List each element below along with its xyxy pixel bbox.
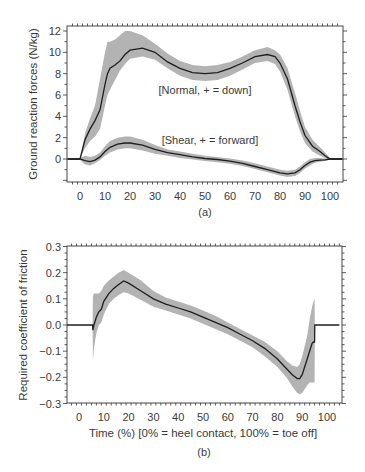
x-tick-label: 0 <box>77 190 83 202</box>
x-tick-label: 100 <box>318 411 336 423</box>
figure: 024681012 0102030405060708090100 Ground … <box>0 0 365 472</box>
y-tick-label: 2 <box>55 132 61 144</box>
panel-b-bands <box>67 270 339 394</box>
y-tick-label: 0.0 <box>46 319 61 331</box>
x-tick-label: 60 <box>224 190 236 202</box>
panel-a-bands <box>68 31 343 177</box>
panel-a-ylabel: Ground reaction forces (N/kg) <box>27 28 39 180</box>
x-tick-label: 80 <box>274 190 286 202</box>
x-tick-label: 40 <box>174 190 186 202</box>
x-tick-label: 30 <box>147 411 159 423</box>
x-tick-label: 20 <box>122 411 134 423</box>
x-tick-label: 50 <box>197 411 209 423</box>
mean-line <box>68 143 343 174</box>
x-tick-label: 90 <box>296 411 308 423</box>
x-tick-label: 70 <box>246 411 258 423</box>
y-tick-label: 0.1 <box>46 293 61 305</box>
panel-b-xticklabels: 0102030405060708090100 <box>76 411 336 423</box>
mean-line <box>67 281 339 379</box>
y-tick-label: −0.2 <box>39 371 61 383</box>
y-tick-label: 12 <box>49 25 61 37</box>
y-tick-label: −0.3 <box>39 398 61 410</box>
panel-b: −0.3−0.2−0.10.00.10.20.3 010203040506070… <box>17 241 346 459</box>
panel-b-xlabel: Time (%) [0% = heel contact, 100% = toe … <box>89 427 317 439</box>
y-tick-label: 0.2 <box>46 267 61 279</box>
x-tick-label: 40 <box>172 411 184 423</box>
panel-b-lines <box>67 281 339 379</box>
panel-b-ylabel: Required coefficient of friction <box>17 249 29 400</box>
x-tick-label: 100 <box>321 190 339 202</box>
x-tick-label: 10 <box>98 411 110 423</box>
x-tick-label: 90 <box>299 190 311 202</box>
x-tick-label: 0 <box>76 411 82 423</box>
panel-a-xticklabels: 0102030405060708090100 <box>77 190 339 202</box>
y-tick-label: 0 <box>55 153 61 165</box>
x-tick-label: 60 <box>222 411 234 423</box>
confidence-band <box>67 270 339 394</box>
x-tick-label: 10 <box>99 190 111 202</box>
x-tick-label: 80 <box>271 411 283 423</box>
annotation-shear: [Shear, + = forward] <box>162 134 259 146</box>
panel-b-label: (b) <box>197 446 210 458</box>
x-tick-label: 20 <box>124 190 136 202</box>
panel-a-yticklabels: 024681012 <box>49 25 61 165</box>
x-tick-label: 30 <box>149 190 161 202</box>
panel-a: 024681012 0102030405060708090100 Ground … <box>27 24 347 219</box>
y-tick-label: 4 <box>55 110 61 122</box>
y-tick-label: 0.3 <box>46 241 61 253</box>
x-tick-label: 50 <box>199 190 211 202</box>
x-tick-label: 70 <box>249 190 261 202</box>
y-tick-label: 8 <box>55 68 61 80</box>
y-tick-label: 6 <box>55 89 61 101</box>
panel-a-label: (a) <box>198 206 211 218</box>
y-tick-label: −0.1 <box>39 345 61 357</box>
panel-b-yticklabels: −0.3−0.2−0.10.00.10.20.3 <box>39 241 61 410</box>
y-tick-label: 10 <box>49 46 61 58</box>
annotation-normal: [Normal, + = down] <box>159 84 252 96</box>
